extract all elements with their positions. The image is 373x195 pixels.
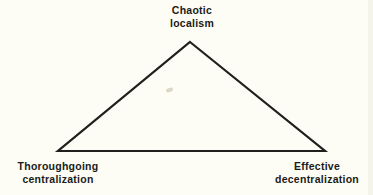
triangle-outline: [58, 42, 325, 151]
label-apex-chaotic-localism: Chaotic localism: [150, 4, 234, 29]
figure-container: Chaotic localism Thoroughgoing centraliz…: [0, 0, 373, 195]
label-bottom-right-effective-decentralization: Effective decentralization: [268, 160, 366, 185]
label-bottom-left-thoroughgoing-centralization: Thoroughgoing centralization: [10, 160, 106, 185]
